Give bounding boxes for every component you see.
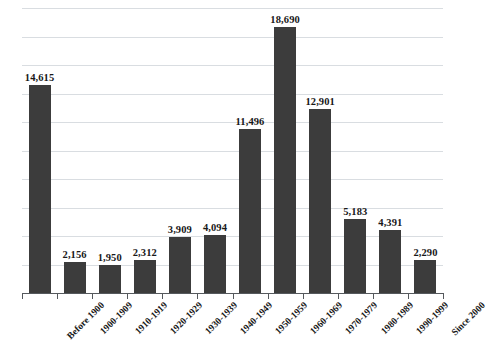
axis-tick [338, 293, 339, 299]
category-label: Since 2000 [449, 300, 486, 337]
bar-group: 11,496 [233, 8, 268, 293]
bar-group: 12,901 [303, 8, 338, 293]
bar-group: 14,615 [22, 8, 57, 293]
axis-tick [92, 293, 93, 299]
bar-value-label: 4,391 [378, 217, 402, 228]
bar-value-label: 14,615 [25, 72, 54, 83]
category-label: 1970-1979 [343, 300, 379, 336]
bar-value-label: 5,183 [343, 206, 367, 217]
bar [414, 260, 436, 293]
axis-tick [233, 293, 234, 299]
bar [274, 27, 296, 293]
bar-group: 3,909 [162, 8, 197, 293]
axis-tick [373, 293, 374, 299]
category-label: 1920-1929 [168, 300, 204, 336]
bar-value-label: 2,290 [413, 247, 437, 258]
bar-group: 5,183 [338, 8, 373, 293]
bar-group: 18,690 [268, 8, 303, 293]
plot-area: 14,6152,1561,9502,3123,9094,09411,49618,… [22, 8, 443, 293]
bar [99, 265, 121, 293]
bar-value-label: 1,950 [98, 252, 122, 263]
category-label: 1940-1949 [238, 300, 274, 336]
bar-value-label: 3,909 [168, 224, 192, 235]
bar-group: 4,391 [373, 8, 408, 293]
bar [344, 219, 366, 293]
bar [29, 85, 51, 293]
axis-tick [127, 293, 128, 299]
bar-group: 2,312 [127, 8, 162, 293]
axis-tick [268, 293, 269, 299]
axis-tick [197, 293, 198, 299]
axis-tick [57, 293, 58, 299]
bar [64, 262, 86, 293]
axis-tick [443, 293, 444, 299]
category-label: 1930-1939 [203, 300, 239, 336]
bar-value-label: 4,094 [203, 222, 227, 233]
category-label: 1990-1999 [414, 300, 450, 336]
axis-tick [162, 293, 163, 299]
axis-tick [303, 293, 304, 299]
bar-group: 2,156 [57, 8, 92, 293]
bar-value-label: 12,901 [305, 96, 334, 107]
bar-group: 4,094 [197, 8, 232, 293]
bars-layer: 14,6152,1561,9502,3123,9094,09411,49618,… [22, 8, 443, 293]
bar [239, 129, 261, 293]
axis-tick [408, 293, 409, 299]
bar-group: 2,290 [408, 8, 443, 293]
bar [379, 230, 401, 293]
bar-group: 1,950 [92, 8, 127, 293]
category-label: Before 1900 [65, 300, 106, 341]
bar [204, 235, 226, 293]
axis-tick [22, 293, 23, 299]
category-label: 1910-1919 [133, 300, 169, 336]
bar-value-label: 11,496 [236, 116, 265, 127]
bar-value-label: 2,156 [63, 249, 87, 260]
category-label: 1960-1969 [308, 300, 344, 336]
x-axis-category-labels: Before 19001900-19091910-19191920-192919… [22, 300, 443, 359]
category-label: 1980-1989 [379, 300, 415, 336]
category-label: 1950-1959 [273, 300, 309, 336]
bar-value-label: 18,690 [270, 14, 299, 25]
bar [169, 237, 191, 293]
bar [134, 260, 156, 293]
bar [309, 109, 331, 293]
bar-value-label: 2,312 [133, 247, 157, 258]
